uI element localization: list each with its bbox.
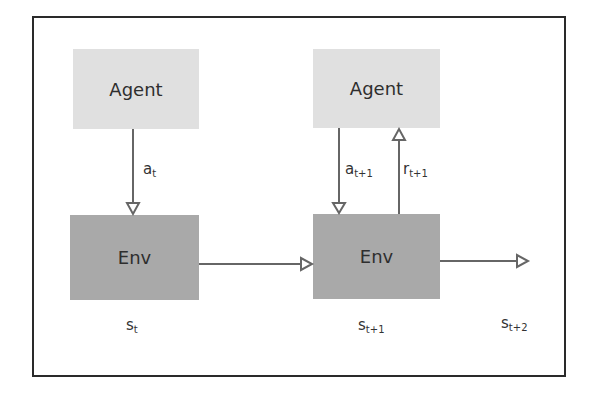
- reward-label-t1: rt+1: [403, 160, 428, 179]
- arrows-layer: [0, 0, 596, 401]
- action-label-t1: at+1: [345, 160, 373, 179]
- action-label-t: at: [143, 160, 156, 179]
- state-label-t2: st+2: [501, 314, 528, 333]
- state-label-t1: st+1: [358, 316, 385, 335]
- state-label-t: st: [126, 316, 138, 335]
